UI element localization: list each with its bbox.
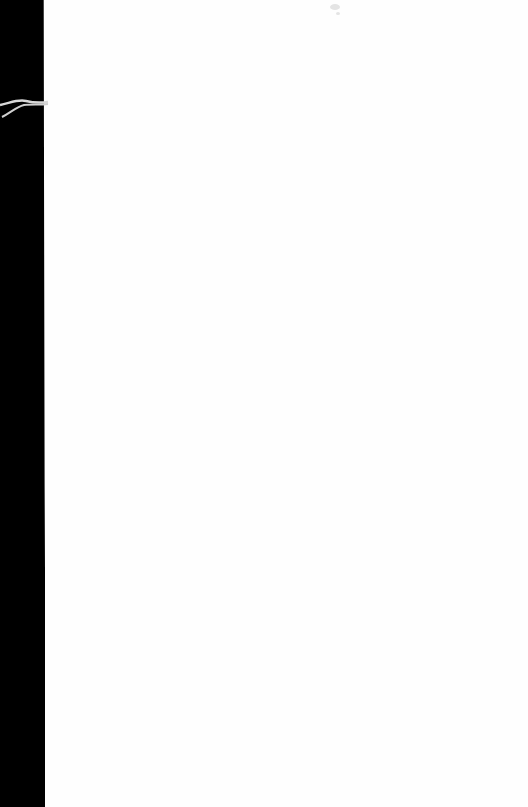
scan-speck [330, 4, 340, 10]
scan-speck [336, 12, 340, 15]
blank-page [45, 0, 528, 807]
loose-thread-mark [0, 95, 50, 125]
